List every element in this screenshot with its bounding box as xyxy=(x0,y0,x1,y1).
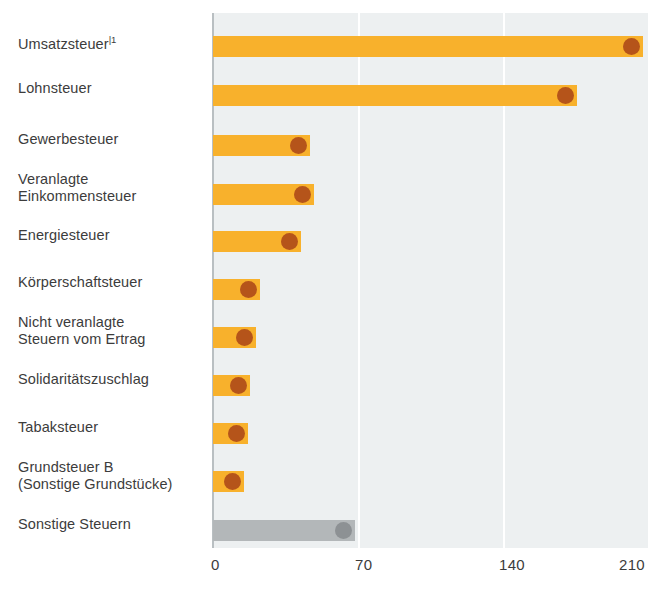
category-label: Tabaksteuer xyxy=(18,419,208,436)
category-label: Nicht veranlagte Steuern vom Ertrag xyxy=(18,314,208,348)
bar-end-marker xyxy=(335,522,352,539)
bar xyxy=(213,85,577,106)
x-tick-label: 210 xyxy=(619,556,645,573)
bar xyxy=(213,520,355,541)
bar xyxy=(213,36,643,57)
category-label: Veranlagte Einkommensteuer xyxy=(18,171,208,205)
horizontal-bar-chart: Umsatzsteuer|1LohnsteuerGewerbesteuerVer… xyxy=(0,0,666,590)
category-label: Sonstige Steuern xyxy=(18,516,208,533)
category-label: Solidaritätszuschlag xyxy=(18,371,208,388)
category-label: Gewerbesteuer xyxy=(18,131,208,148)
bar-end-marker xyxy=(236,329,253,346)
x-tick-label: 0 xyxy=(211,556,220,573)
bar-end-marker xyxy=(224,473,241,490)
bar-end-marker xyxy=(557,87,574,104)
category-label: Grundsteuer B (Sonstige Grundstücke) xyxy=(18,459,208,493)
bar-end-marker xyxy=(294,186,311,203)
bar-end-marker xyxy=(228,425,245,442)
x-tick-label: 140 xyxy=(499,556,525,573)
bar-end-marker xyxy=(290,137,307,154)
x-tick-label: 70 xyxy=(355,556,372,573)
bar-end-marker xyxy=(623,38,640,55)
bar-end-marker xyxy=(281,233,298,250)
bar-end-marker xyxy=(230,377,247,394)
bar-end-marker xyxy=(240,281,257,298)
category-label: Energiesteuer xyxy=(18,227,208,244)
footnote-marker: |1 xyxy=(109,34,117,45)
category-label: Lohnsteuer xyxy=(18,80,208,97)
category-label: Körperschaftsteuer xyxy=(18,274,208,291)
category-label: Umsatzsteuer|1 xyxy=(18,31,208,53)
